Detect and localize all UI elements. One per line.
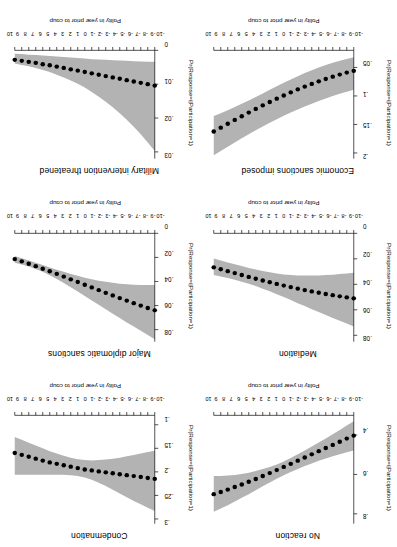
data-point	[90, 72, 95, 76]
x-tick-label: -6	[128, 396, 133, 402]
panel-title: Military intervention threatened	[0, 166, 199, 182]
data-point	[330, 75, 335, 79]
data-point	[27, 455, 32, 459]
x-tick-label: 8	[24, 31, 27, 37]
x-axis: -10-9-8-7-6-5-4-3-2-1012345678910Polity …	[10, 0, 161, 44]
x-tick-label: 1	[275, 396, 278, 402]
data-point	[76, 69, 81, 73]
data-point	[211, 130, 216, 134]
x-tick-label: 6	[39, 213, 42, 219]
y-tick-label: .08	[165, 328, 174, 335]
figure-panel-grid: No reactionPr(Response=i|Participation=1…	[0, 0, 397, 547]
data-point	[55, 65, 60, 69]
x-tick-label: -10	[156, 396, 164, 402]
x-tick-label: 4	[54, 213, 57, 219]
x-tick-label: 1	[76, 396, 79, 402]
x-tick-label: -9	[150, 213, 155, 219]
data-point	[211, 492, 216, 496]
x-tick-label: 5	[46, 31, 49, 37]
x-tick-label: -5	[319, 213, 324, 219]
data-point	[97, 469, 102, 473]
x-tick-label: 7	[230, 213, 233, 219]
x-tick-label: 8	[222, 31, 225, 37]
x-axis: -10-9-8-7-6-5-4-3-2-1012345678910Polity …	[209, 182, 360, 226]
x-tick-label: -1	[90, 31, 95, 37]
data-point	[132, 301, 137, 305]
x-tick-label: 3	[260, 213, 263, 219]
data-point	[309, 289, 314, 293]
panel-1: CondemnationPr(Response=i|Participation=…	[0, 365, 199, 547]
x-tick-label: 9	[16, 396, 19, 402]
x-tick-label: 3	[260, 396, 263, 402]
y-axis: .4.6.8	[359, 409, 397, 527]
data-point	[330, 443, 335, 447]
x-tick-label: 5	[245, 213, 248, 219]
data-point	[295, 286, 300, 290]
panel-title: Major diplomatic sanctions	[0, 349, 199, 365]
y-tick-label: .2	[363, 153, 368, 160]
x-tick-label: 9	[16, 213, 19, 219]
data-point	[246, 480, 251, 484]
y-tick-label: 0	[165, 41, 169, 48]
x-tick-label: -6	[326, 396, 331, 402]
x-tick-label: -10	[156, 31, 164, 37]
data-point	[288, 91, 293, 95]
data-point	[295, 88, 300, 92]
data-point	[118, 296, 123, 300]
x-tick-label: -7	[334, 396, 339, 402]
data-point	[281, 283, 286, 287]
x-tick-label: -3	[105, 31, 110, 37]
y-tick-label: .4	[363, 427, 368, 434]
x-tick-label: 4	[54, 396, 57, 402]
data-point	[118, 472, 123, 476]
data-point	[337, 73, 342, 77]
panel-5: Military intervention threatenedPr(Respo…	[0, 0, 199, 182]
x-tick-label: 1	[76, 31, 79, 37]
x-tick-label: 5	[245, 31, 248, 37]
data-point	[90, 285, 95, 289]
x-tick-label: 3	[260, 31, 263, 37]
plot-area	[10, 409, 161, 527]
x-tick-label: -3	[304, 396, 309, 402]
data-point	[97, 73, 102, 77]
data-point	[139, 303, 144, 307]
data-point	[20, 259, 25, 263]
y-axis: .05.1.15.2	[359, 44, 397, 162]
x-tick-label: 2	[69, 396, 72, 402]
data-point	[225, 487, 230, 491]
x-tick-label: 6	[237, 396, 240, 402]
x-tick-label: 6	[237, 31, 240, 37]
x-tick-label: -8	[341, 31, 346, 37]
x-tick-label: 5	[245, 396, 248, 402]
data-point	[104, 290, 109, 294]
data-point	[153, 308, 158, 312]
x-tick-label: 0	[84, 396, 87, 402]
data-point	[146, 305, 151, 309]
data-point	[344, 436, 349, 440]
x-tick-label: 3	[61, 213, 64, 219]
x-tick-label: -4	[113, 396, 118, 402]
y-tick-label: .02	[363, 251, 372, 258]
y-tick-label: .15	[363, 121, 372, 128]
y-tick-label: .2	[165, 467, 170, 474]
data-point	[104, 74, 109, 78]
x-tick-label: -2	[296, 31, 301, 37]
x-tick-label: -1	[90, 396, 95, 402]
x-tick-label: 4	[252, 31, 255, 37]
x-tick-label: 2	[267, 396, 270, 402]
data-point	[62, 274, 67, 278]
data-point	[351, 433, 356, 437]
x-tick-label: 6	[39, 396, 42, 402]
panel-grid: No reactionPr(Response=i|Participation=1…	[0, 0, 397, 547]
data-point	[111, 76, 116, 80]
y-tick-label: .25	[165, 493, 174, 500]
data-point	[295, 458, 300, 462]
x-tick-label: -1	[289, 396, 294, 402]
x-tick-label: 5	[46, 213, 49, 219]
plot-area	[10, 44, 161, 162]
x-tick-label: -6	[326, 213, 331, 219]
x-tick-label: -9	[349, 31, 354, 37]
data-point	[218, 267, 223, 271]
data-point	[246, 274, 251, 278]
x-tick-label: -2	[98, 396, 103, 402]
